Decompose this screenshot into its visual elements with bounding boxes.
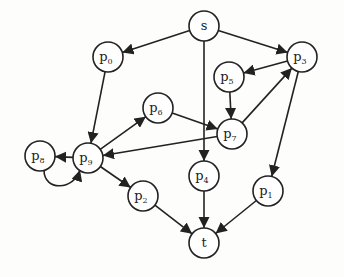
node-t: t [189, 228, 219, 258]
node-p4: p4 [189, 161, 219, 191]
edge-s-to-p3 [218, 31, 287, 53]
edge-p9-to-p8 [55, 157, 73, 158]
node-label: s [201, 18, 208, 33]
graph-diagram: sp0p3p5p6p7p9p8p4p1p2t [0, 0, 344, 277]
node-s: s [189, 11, 219, 41]
edge-p7-to-p9 [103, 137, 217, 156]
node-p5: p5 [214, 62, 244, 92]
edge-p6-to-p7 [172, 113, 218, 129]
node-p7: p7 [217, 119, 247, 149]
node-label: t [201, 235, 207, 250]
edge-s-to-p0 [122, 31, 189, 53]
node-p9: p9 [73, 143, 103, 173]
node-p6: p6 [143, 93, 173, 123]
edge-p5-to-p7 [230, 92, 231, 119]
edge-p7-to-p3 [242, 68, 292, 123]
edge-p8-to-p9 [44, 170, 80, 186]
node-p8: p8 [25, 141, 55, 171]
node-p1: p1 [253, 176, 283, 206]
edge-p9-to-p2 [100, 167, 130, 188]
node-p3: p3 [287, 42, 317, 72]
edge-p9-to-p6 [100, 117, 146, 150]
node-p0: p0 [93, 42, 123, 72]
edge-p3-to-p1 [272, 72, 299, 177]
graph-canvas: sp0p3p5p6p7p9p8p4p1p2t [0, 0, 344, 277]
edge-p3-to-p5 [244, 61, 288, 73]
edge-p0-to-p9 [91, 72, 105, 144]
edge-p1-to-t [216, 201, 257, 234]
node-p2: p2 [128, 181, 158, 211]
edge-p2-to-t [155, 205, 192, 234]
